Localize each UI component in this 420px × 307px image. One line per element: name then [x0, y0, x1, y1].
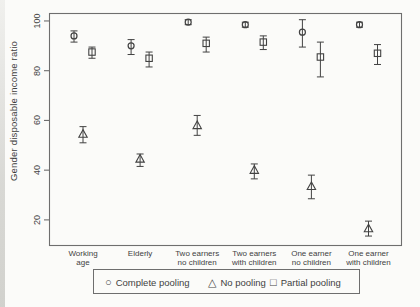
y-tick-label: 40 — [32, 165, 42, 175]
square-marker-icon: □ — [270, 276, 277, 287]
legend-label: Partial pooling — [281, 276, 341, 287]
legend-entry-partial-pooling: □ Partial pooling — [270, 276, 341, 287]
x-category-label: One earner with children — [346, 249, 390, 267]
y-tick-label: 100 — [32, 13, 42, 28]
x-category-label: One earner no children — [291, 249, 331, 267]
legend-label: No pooling — [220, 276, 265, 287]
x-category-label: Elderly — [128, 249, 152, 258]
triangle-marker-icon: △ — [208, 276, 216, 287]
x-category-label: Two earners with children — [232, 249, 276, 267]
y-tick-label: 80 — [32, 66, 42, 76]
legend: ○ Complete pooling △ No pooling □ Partia… — [93, 269, 360, 294]
y-tick-label: 60 — [32, 115, 42, 125]
y-tick-label: 20 — [32, 215, 42, 225]
plot-frame — [50, 14, 402, 246]
circle-marker-icon: ○ — [105, 276, 112, 287]
legend-entry-no-pooling: △ No pooling — [208, 276, 266, 287]
legend-label: Complete pooling — [116, 276, 190, 287]
x-category-label: Working age — [68, 249, 97, 267]
legend-entry-complete-pooling: ○ Complete pooling — [105, 276, 190, 287]
scanned-chart-figure: Gender disposable income ratio 204060801… — [0, 0, 420, 307]
y-axis-title: Gender disposable income ratio — [8, 41, 19, 181]
x-category-label: Two earners no children — [175, 249, 219, 267]
